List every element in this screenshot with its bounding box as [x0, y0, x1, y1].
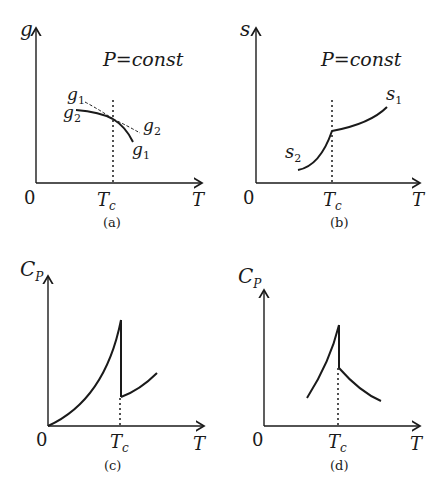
curve-g1-dashed: [85, 102, 113, 119]
caption: (a): [103, 215, 121, 230]
y-label: CP: [238, 264, 262, 291]
tick-tc: Tc: [97, 189, 116, 213]
x-label: T: [193, 433, 207, 454]
caption: (d): [330, 458, 348, 473]
panel-d: CP 0 Tc T (d): [238, 264, 424, 473]
y-label: g: [20, 17, 33, 41]
curve-s1: [332, 107, 387, 131]
tick-tc: Tc: [328, 431, 347, 455]
curve-above-tc: [121, 373, 157, 397]
x-label: T: [412, 189, 426, 210]
label-g1-bottom: g1: [132, 139, 150, 162]
origin-label: 0: [24, 187, 35, 208]
origin-label: 0: [36, 429, 47, 450]
caption: (c): [104, 458, 121, 473]
annotation: P=const: [320, 48, 402, 70]
annotation: P=const: [102, 48, 184, 70]
x-label: T: [192, 189, 206, 210]
label-g2-right: g2: [143, 115, 161, 138]
origin-label: 0: [252, 429, 263, 450]
curve-above-tc: [339, 368, 381, 401]
label-s1: s1: [386, 83, 402, 107]
label-s2: s2: [285, 141, 301, 165]
curve-below-tc: [307, 325, 339, 398]
curve-g2: [76, 110, 113, 119]
origin-label: 0: [243, 187, 254, 208]
caption: (b): [330, 215, 348, 230]
curve-g1: [113, 119, 133, 142]
panel-c: CP 0 Tc T (c): [20, 257, 207, 473]
y-label: CP: [20, 257, 44, 284]
panel-b: s P=const s1 s2 0 Tc T (b): [240, 17, 426, 230]
panel-a: g P=const g1 g2 g2 g1 0 Tc T (a): [20, 17, 206, 230]
curve-s2: [298, 131, 332, 170]
x-label: T: [410, 433, 424, 454]
tick-tc: Tc: [323, 189, 342, 213]
y-label: s: [240, 17, 250, 41]
curve-below-tc: [48, 320, 121, 426]
tick-tc: Tc: [110, 431, 129, 455]
figure: g P=const g1 g2 g2 g1 0 Tc T (a) s P=con…: [0, 0, 445, 493]
